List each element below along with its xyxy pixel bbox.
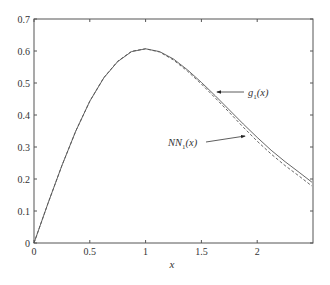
annotation-arrow [206, 136, 245, 142]
x-tick-label: 2 [255, 246, 260, 257]
y-axis-ticks: 00.10.20.30.40.50.60.7 [18, 14, 314, 249]
y-tick-label: 0.5 [18, 78, 31, 89]
x-tick-label: 0 [32, 246, 37, 257]
y-tick-label: 0.4 [18, 110, 31, 121]
y-tick-label: 0.2 [18, 174, 31, 185]
y-tick-label: 0.7 [18, 14, 31, 25]
y-tick-label: 0.3 [18, 142, 31, 153]
annotations: g1(x)NN1(x) [167, 87, 269, 151]
annotation-label: g1(x) [248, 87, 269, 101]
y-tick-label: 0 [25, 238, 30, 249]
x-tick-label: 1.5 [195, 246, 208, 257]
annotation-label: NN1(x) [167, 137, 198, 151]
line-chart: 00.511.52 00.10.20.30.40.50.60.7 g1(x)NN… [0, 0, 330, 285]
y-tick-label: 0.1 [18, 206, 31, 217]
x-tick-label: 0.5 [84, 246, 97, 257]
x-tick-label: 1 [143, 246, 148, 257]
x-axis-ticks: 00.511.52 [32, 19, 260, 257]
chart-canvas: 00.511.52 00.10.20.30.40.50.60.7 g1(x)NN… [0, 0, 330, 285]
x-axis-label: x [169, 258, 175, 270]
y-tick-label: 0.6 [18, 46, 31, 57]
